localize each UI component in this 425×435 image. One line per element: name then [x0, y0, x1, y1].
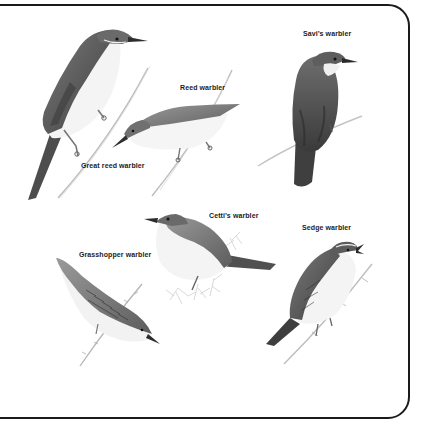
label-reed-warbler: Reed warbler — [180, 84, 225, 91]
label-savis-warbler: Savi’s warbler — [303, 30, 351, 37]
cettis-warbler-figure — [144, 214, 276, 304]
savis-warbler-figure — [258, 52, 362, 187]
label-grasshopper-warbler: Grasshopper warbler — [79, 251, 151, 258]
label-cettis-warbler: Cetti’s warbler — [209, 212, 258, 219]
sedge-warbler-figure — [266, 242, 372, 364]
label-sedge-warbler: Sedge warbler — [302, 224, 351, 231]
illustration-plate: Savi’s warbler Reed warbler Great reed w… — [0, 0, 425, 435]
label-great-reed-warbler: Great reed warbler — [81, 162, 145, 169]
great-reed-warbler-figure — [28, 30, 150, 200]
grasshopper-warbler-figure — [56, 258, 160, 366]
